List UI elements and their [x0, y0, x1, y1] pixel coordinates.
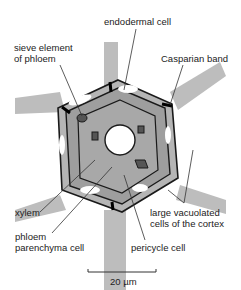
label-cortex: large vacuolated	[150, 207, 220, 218]
label-casparian-band: Casparian band	[161, 53, 228, 64]
label-phloem-parenchyma-2: parenchyma cell	[15, 242, 84, 253]
root-section-diagram: endodermal cell sieve element of phloem …	[0, 0, 241, 290]
xylem-vessel	[105, 125, 135, 155]
label-sieve-element: sieve element	[14, 42, 73, 53]
label-xylem: xylem	[15, 207, 40, 218]
label-pericycle-cell: pericycle cell	[131, 242, 185, 253]
label-cortex-2: cells of the cortex	[150, 218, 224, 229]
label-endodermal-cell: endodermal cell	[104, 16, 171, 27]
scale-bar-label: 20 µm	[110, 276, 137, 287]
label-phloem-parenchyma: phloem	[15, 231, 46, 242]
label-sieve-element-2: of phloem	[14, 53, 56, 64]
